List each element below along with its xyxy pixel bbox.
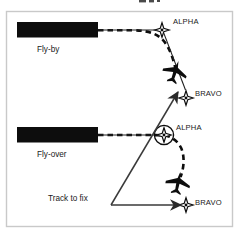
track-to-fix-group: Track to fix	[48, 92, 181, 205]
alpha-top-label: ALPHA	[173, 17, 199, 26]
cropped-caption-artifact	[139, 0, 160, 2]
bravo-upper-label: BRAVO	[195, 89, 222, 98]
alpha-middle-label: ALPHA	[176, 123, 202, 132]
redaction-bar-fly-by	[17, 22, 98, 38]
navigation-legs-diagram: ALPHA Fly-by BRAVO ALPHA Fly-over	[0, 0, 239, 234]
bravo-lower-label: BRAVO	[195, 198, 222, 207]
track-to-fix-label: Track to fix	[48, 194, 88, 203]
dashed-track-fly-by	[98, 30, 176, 71]
fly-over-mode-label: Fly-over	[37, 150, 67, 159]
fly-by-group: ALPHA Fly-by BRAVO	[17, 17, 222, 106]
fix-bravo-fly-by	[179, 91, 193, 105]
fly-by-mode-label: Fly-by	[37, 45, 60, 54]
aircraft-fly-over	[164, 169, 193, 196]
track-to-fix-diagonal	[111, 92, 178, 205]
figure-root: ALPHA Fly-by BRAVO ALPHA Fly-over	[0, 0, 239, 234]
redaction-bar-fly-over	[17, 127, 98, 143]
